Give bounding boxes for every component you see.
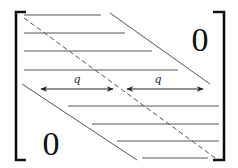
banded-matrix-diagram: q q 0 0 xyxy=(0,0,238,168)
lower-left-zero-label: 0 xyxy=(43,125,60,162)
lower-band-boundary xyxy=(22,84,137,160)
upper-rows xyxy=(24,15,178,70)
left-width-label: q xyxy=(73,73,80,86)
upper-right-zero-label: 0 xyxy=(192,21,209,58)
lower-rows xyxy=(68,106,219,158)
right-bracket xyxy=(213,12,224,160)
right-width-label: q xyxy=(154,73,161,86)
